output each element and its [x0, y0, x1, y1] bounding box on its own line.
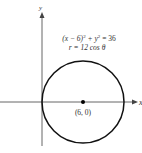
cartesian-equation-base: (x − 6) — [62, 34, 83, 43]
center-point-dot — [81, 100, 85, 104]
cartesian-equation-mid: + y — [86, 34, 99, 43]
y-axis-label: y — [38, 4, 43, 12]
diagram-canvas: x y (6, 0) (x − 6)2 + y2 = 36 r = 12 cos… — [0, 0, 142, 153]
cartesian-equation-rhs: = 36 — [100, 34, 116, 43]
polar-equation: r = 12 cos θ — [69, 43, 106, 52]
center-point-label: (6, 0) — [75, 108, 92, 117]
cartesian-equation: (x − 6)2 + y2 = 36 — [62, 34, 116, 43]
y-axis — [40, 12, 45, 146]
x-axis — [0, 100, 138, 105]
x-axis-label: x — [138, 98, 142, 107]
x-axis-arrow-icon — [132, 100, 138, 105]
y-axis-arrow-icon — [40, 12, 45, 18]
